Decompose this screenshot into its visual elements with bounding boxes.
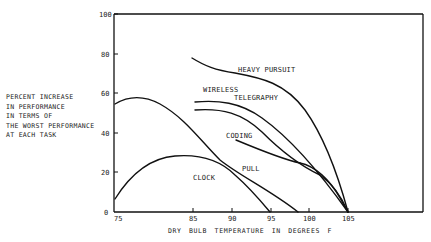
y-tick-0: 0 (104, 209, 108, 217)
x-tick-100: 100 (303, 215, 316, 223)
label-coding: CODING (226, 132, 253, 140)
curve-wireless-telegraphy (195, 101, 348, 212)
curve-pull-to-105 (236, 140, 300, 163)
x-tick-75: 75 (114, 215, 122, 223)
label-telegraphy: TELEGRAPHY (234, 94, 279, 102)
plot-frame (114, 14, 423, 212)
y-tick-40: 40 (101, 130, 109, 138)
y-tick-20: 20 (101, 169, 109, 177)
label-pull: PULL (242, 165, 260, 173)
curve-heavy-pursuit (192, 58, 348, 212)
x-tick-95: 95 (267, 215, 275, 223)
x-tick-90: 90 (228, 215, 236, 223)
y-tick-labels: 100 80 60 40 20 0 (99, 11, 112, 217)
x-tick-labels: 75 85 90 95 100 105 (114, 215, 355, 223)
label-clock: CLOCK (193, 174, 216, 182)
curve-pull (115, 98, 298, 212)
x-tick-105: 105 (342, 215, 355, 223)
label-wireless: WIRELESS (203, 86, 238, 94)
y-tick-100: 100 (99, 11, 112, 19)
y-tick-80: 80 (101, 51, 109, 59)
chart-plot: 100 80 60 40 20 0 75 85 90 95 100 105 HE… (0, 0, 431, 242)
curve-labels: HEAVY PURSUIT WIRELESS TELEGRAPHY CODING… (193, 66, 296, 182)
label-heavy-pursuit: HEAVY PURSUIT (238, 66, 296, 74)
y-tick-60: 60 (101, 90, 109, 98)
x-tick-85: 85 (189, 215, 197, 223)
